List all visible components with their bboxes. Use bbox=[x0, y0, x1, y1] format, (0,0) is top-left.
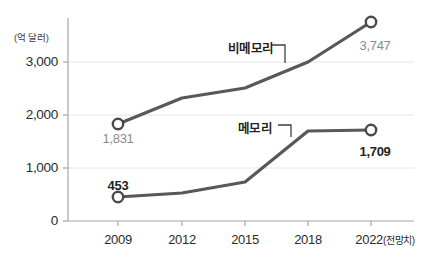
series-label-non-memory: 비메모리 bbox=[228, 38, 274, 57]
annotation-leader-memory bbox=[278, 125, 291, 137]
y-axis-tick-label-1000: 1,000 bbox=[0, 160, 58, 175]
x-axis-ticks bbox=[118, 221, 371, 226]
value-label-non-memory-2009: 1,831 bbox=[102, 131, 133, 146]
x-axis-tick-label-2022-suffix: (전망치) bbox=[383, 235, 415, 246]
x-axis-tick-label-2022: 2022(전망치) bbox=[355, 232, 414, 247]
chart-container: (억 달러) 3,000 2,000 1,000 0 2009 2012 201… bbox=[0, 0, 429, 261]
y-axis-ticks bbox=[63, 62, 68, 221]
data-point-non-memory-2022 bbox=[366, 17, 376, 27]
data-point-memory-2022 bbox=[366, 125, 376, 135]
series-label-memory: 메모리 bbox=[238, 118, 272, 137]
y-axis-tick-label-3000: 3,000 bbox=[0, 54, 58, 69]
value-label-memory-2009: 453 bbox=[108, 178, 129, 193]
series-line-memory bbox=[118, 130, 371, 197]
y-axis-unit-label: (억 달러) bbox=[14, 30, 49, 44]
data-point-non-memory-2009 bbox=[113, 119, 123, 129]
x-axis-tick-label-2015: 2015 bbox=[231, 232, 259, 247]
x-axis-tick-label-2018: 2018 bbox=[294, 232, 322, 247]
x-axis-tick-label-2012: 2012 bbox=[168, 232, 196, 247]
y-axis-tick-label-2000: 2,000 bbox=[0, 107, 58, 122]
data-point-memory-2009 bbox=[113, 192, 123, 202]
x-axis-tick-label-2022-year: 2022 bbox=[355, 232, 383, 247]
value-label-memory-2022: 1,709 bbox=[359, 144, 390, 159]
y-axis-tick-label-0: 0 bbox=[0, 213, 58, 228]
value-label-non-memory-2022: 3,747 bbox=[359, 38, 390, 53]
x-axis-tick-label-2009: 2009 bbox=[104, 232, 132, 247]
